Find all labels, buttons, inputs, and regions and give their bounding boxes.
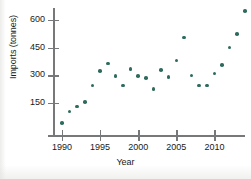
data-point [129,67,133,71]
y-tick-label-300: 300 [19,70,45,79]
data-point [60,121,64,125]
data-point [243,9,247,13]
data-point [190,74,194,78]
x-tick-2000 [138,130,139,141]
data-point [159,68,163,72]
y-axis-line [53,8,55,136]
data-point [83,100,87,104]
x-tick-label-2010: 2010 [197,143,231,152]
scatter-chart: Imports (tonnes) Year 150300450600 19901… [0,0,251,179]
x-tick-1995 [100,130,101,141]
y-tick-300 [48,75,59,76]
data-point [114,74,118,78]
x-tick-label-2005: 2005 [159,143,193,152]
data-point [152,87,156,91]
x-tick-2005 [176,130,177,141]
y-tick-label-150: 150 [19,98,45,107]
y-tick-600 [48,20,59,21]
data-point [213,72,217,76]
y-tick-label-450: 450 [19,43,45,52]
data-point [106,62,110,66]
x-tick-label-2000: 2000 [121,143,155,152]
data-point [220,63,224,67]
data-point [91,84,95,88]
data-point [144,76,148,80]
x-axis-title: Year [0,157,251,167]
page-edge-shading-bottom [0,165,251,179]
x-tick-label-1990: 1990 [45,143,79,152]
data-point [182,36,186,40]
y-tick-150 [48,103,59,104]
data-point [98,69,102,73]
data-point [75,105,79,109]
x-tick-1990 [62,130,63,141]
x-tick-2010 [214,130,215,141]
data-point [175,59,179,63]
data-point [68,110,72,114]
data-point [205,84,209,88]
data-point [197,84,201,88]
y-tick-label-600: 600 [19,15,45,24]
y-tick-450 [48,48,59,49]
x-tick-label-1995: 1995 [83,143,117,152]
data-point [235,32,239,36]
data-point [136,74,140,78]
page-edge-shading-left [0,0,6,179]
y-axis-title: Imports (tonnes) [8,0,18,102]
data-point [121,84,125,88]
data-point [228,46,232,50]
data-point [167,75,171,79]
